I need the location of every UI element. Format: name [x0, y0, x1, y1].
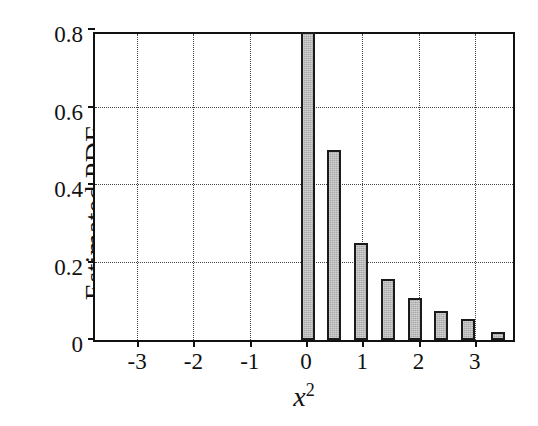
- x-tick-mark: [137, 340, 139, 347]
- bar: [381, 279, 395, 340]
- y-tick-mark: [88, 261, 95, 263]
- y-tick-label: 0: [72, 333, 84, 356]
- bar: [354, 243, 368, 340]
- gridline-vertical: [137, 34, 138, 340]
- y-tick-label: 0.6: [54, 100, 83, 123]
- plot-area: 00.20.40.60.8 -3-2-10123: [93, 32, 515, 342]
- y-tick-mark: [88, 28, 95, 30]
- x-tick-mark: [475, 340, 477, 347]
- y-tick-label: 0.2: [54, 255, 83, 278]
- y-tick-mark: [88, 338, 95, 340]
- x-tick-label: 2: [413, 350, 425, 373]
- bar: [434, 311, 448, 340]
- x-axis-title-exponent: 2: [306, 380, 315, 400]
- x-axis-title: x2: [93, 381, 515, 413]
- gridline-vertical: [250, 34, 251, 340]
- x-tick-label: -2: [184, 350, 203, 373]
- gridline-vertical: [193, 34, 194, 340]
- x-tick-mark: [250, 340, 252, 347]
- x-tick-label: -1: [240, 350, 259, 373]
- x-tick-mark: [193, 340, 195, 347]
- x-tick-mark: [362, 340, 364, 347]
- bar: [327, 150, 341, 340]
- y-tick-mark: [88, 183, 95, 185]
- chart-figure: Estimated PDF 00.20.40.60.8 -3-2-10123 x…: [0, 0, 538, 426]
- x-tick-label: 0: [300, 350, 312, 373]
- x-tick-label: -3: [128, 350, 147, 373]
- x-tick-mark: [419, 340, 421, 347]
- x-axis-title-base: x: [293, 381, 305, 412]
- x-tick-label: 3: [469, 350, 481, 373]
- x-tick-label: 1: [357, 350, 369, 373]
- y-tick-label: 0.8: [54, 23, 83, 46]
- y-tick-mark: [88, 106, 95, 108]
- bar: [408, 298, 422, 340]
- x-tick-mark: [306, 340, 308, 347]
- gridline-vertical: [419, 34, 420, 340]
- bar: [491, 332, 505, 340]
- y-tick-label: 0.4: [54, 178, 83, 201]
- gridline-vertical: [475, 34, 476, 340]
- bar: [461, 319, 475, 340]
- bar: [301, 32, 315, 340]
